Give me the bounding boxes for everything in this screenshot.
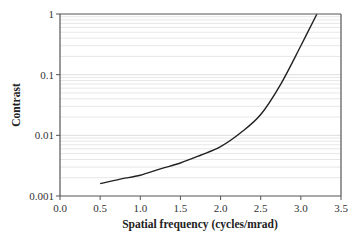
x-axis-ticks: 0.00.51.01.52.02.53.03.5 <box>53 196 348 214</box>
chart: 0.00.51.01.52.02.53.03.5 0.0010.010.11 S… <box>0 0 362 243</box>
y-axis-label: Contrast <box>10 83 22 127</box>
x-tick-label: 3.0 <box>294 202 308 214</box>
x-tick-label: 2.5 <box>254 202 268 214</box>
x-tick-label: 2.0 <box>214 202 228 214</box>
y-tick-label: 0.001 <box>29 190 54 202</box>
y-tick-label: 1 <box>49 8 55 20</box>
y-tick-label: 0.1 <box>40 69 54 81</box>
x-axis-label: Spatial frequency (cycles/mrad) <box>122 218 278 231</box>
grid-lines <box>60 17 341 178</box>
x-tick-label: 1.0 <box>133 202 147 214</box>
y-tick-label: 0.01 <box>35 129 54 141</box>
x-tick-label: 0.0 <box>53 202 67 214</box>
axes <box>60 14 341 196</box>
y-axis-ticks: 0.0010.010.11 <box>29 8 60 202</box>
x-tick-label: 3.5 <box>334 202 348 214</box>
x-tick-label: 0.5 <box>93 202 107 214</box>
x-tick-label: 1.5 <box>174 202 188 214</box>
